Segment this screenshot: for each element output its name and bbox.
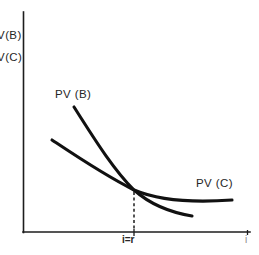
figure-canvas <box>0 0 259 255</box>
curve-label-pv-c: PV (C) <box>196 178 233 190</box>
x-axis-name-label: i <box>245 235 248 245</box>
curve-pv-c <box>52 140 232 201</box>
y-axis-label-pv-b: PV(B) <box>0 30 22 42</box>
x-axis-tick-label-i-equals-r: i=r <box>122 235 135 245</box>
pv-curves-figure: PV(B) PV(C) PV (B) PV (C) i=r i <box>0 0 259 255</box>
curve-label-pv-b: PV (B) <box>55 89 91 101</box>
y-axis-label-pv-c: PV(C) <box>0 52 22 64</box>
